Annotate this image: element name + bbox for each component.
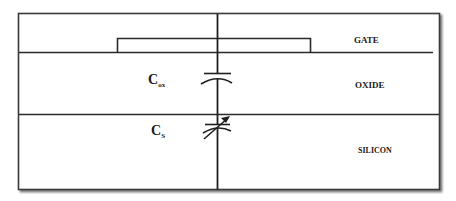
cox-subscript: ox bbox=[158, 81, 166, 89]
cox-symbol: C bbox=[148, 72, 158, 87]
cs-subscript: S bbox=[161, 132, 165, 140]
mos-capacitor-diagram: GATE OXIDE SILICON Cox CS bbox=[0, 0, 456, 201]
cs-symbol: C bbox=[151, 123, 161, 138]
gate-label: GATE bbox=[354, 35, 379, 45]
oxide-label: OXIDE bbox=[355, 80, 385, 90]
silicon-label: SILICON bbox=[358, 146, 392, 155]
